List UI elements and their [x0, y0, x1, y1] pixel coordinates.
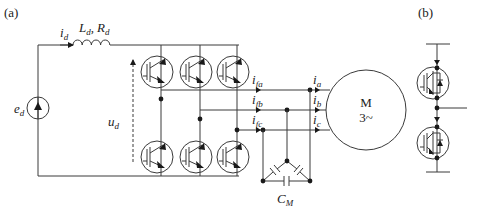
inductor-icon — [73, 40, 110, 45]
panel-label-b: (b) — [418, 5, 433, 20]
circuit-diagram: (a) (b) ed id Ld,Rd ud — [0, 0, 481, 212]
filter-current-b-label: ifb — [252, 92, 263, 109]
capacitor-network — [261, 90, 313, 186]
phase-current-c-label: ic — [313, 112, 321, 129]
igbt-lower-a-icon — [141, 141, 173, 173]
phase-lines — [159, 87, 330, 133]
phase-current-b-label: ib — [313, 92, 322, 109]
capacitor-label: CM — [277, 191, 294, 208]
half-bridge-leg — [417, 44, 467, 172]
igbt-upper-b-icon — [180, 56, 212, 88]
phase-current-a-label: ia — [313, 72, 322, 89]
panel-label-a: (a) — [4, 5, 18, 20]
source-label: ed — [14, 101, 25, 118]
motor-phase-label: 3~ — [359, 110, 373, 125]
filter-current-c-label: ifc — [252, 112, 262, 129]
filter-current-a-label: ifa — [252, 72, 263, 89]
dc-impedance-label: Ld,Rd — [78, 20, 110, 37]
voltage-source-icon — [27, 97, 49, 119]
dc-current-label: id — [60, 25, 69, 42]
igbt-upper-detail-icon — [417, 67, 449, 99]
igbt-lower-b-icon — [180, 141, 212, 173]
dc-link — [38, 40, 239, 176]
dc-voltage-label: ud — [108, 114, 120, 131]
igbt-lower-detail-icon — [417, 127, 449, 159]
igbt-upper-a-icon — [141, 56, 173, 88]
igbt-upper-c-icon — [217, 56, 249, 88]
igbt-lower-c-icon — [217, 141, 249, 173]
motor-label: M — [360, 95, 372, 110]
